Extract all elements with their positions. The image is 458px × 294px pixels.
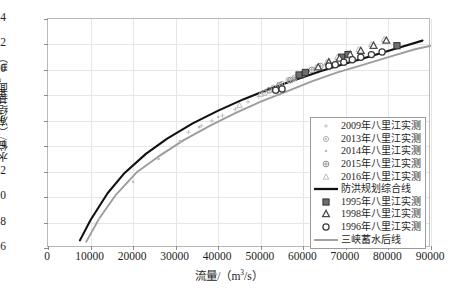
legend-item[interactable]: 2016年八里江实测 bbox=[313, 170, 421, 183]
x-axis-title: 流量/（m3/s） bbox=[0, 267, 458, 283]
x-tick-label: 50000 bbox=[245, 251, 274, 263]
y-tick-label: 8 bbox=[0, 216, 6, 228]
legend-label: 2016年八里江实测 bbox=[339, 172, 421, 182]
legend-marker-icon bbox=[313, 208, 339, 220]
legend-label: 1995年八里江实测 bbox=[339, 197, 421, 207]
y-tick-label: 18 bbox=[0, 88, 6, 100]
y-tick-label: 20 bbox=[0, 63, 6, 75]
x-tick-label: 40000 bbox=[203, 251, 232, 263]
legend-item[interactable]: 1996年八里江实测 bbox=[313, 221, 421, 234]
y-tick-label: 14 bbox=[0, 139, 6, 151]
legend-label: 2013年八里江实测 bbox=[339, 134, 421, 144]
y-tick-label: 6 bbox=[0, 241, 6, 253]
legend-marker-icon bbox=[313, 183, 339, 195]
series-markers bbox=[237, 36, 387, 107]
y-tick-label: 10 bbox=[0, 190, 6, 202]
y-tick bbox=[44, 248, 48, 249]
x-tick-label: 10000 bbox=[75, 251, 104, 263]
y-tick-label: 24 bbox=[0, 12, 6, 24]
legend-item[interactable]: 2015年八里江实测 bbox=[313, 158, 421, 171]
x-tick-label: 80000 bbox=[373, 251, 402, 263]
x-tick-label: 70000 bbox=[331, 251, 360, 263]
legend-item[interactable]: 2014年八里江实测 bbox=[313, 145, 421, 158]
legend-item[interactable]: 1995年八里江实测 bbox=[313, 196, 421, 209]
legend-marker-icon bbox=[313, 196, 339, 208]
legend-marker-icon bbox=[313, 221, 339, 233]
legend-label: 防洪规划综合线 bbox=[339, 184, 411, 194]
series-markers bbox=[273, 49, 386, 93]
legend-label: 三峡蓄水后线 bbox=[339, 235, 401, 245]
series-markers bbox=[186, 94, 261, 134]
legend-label: 2014年八里江实测 bbox=[339, 146, 421, 156]
y-tick-label: 16 bbox=[0, 114, 6, 126]
legend-item[interactable]: 防洪规划综合线 bbox=[313, 183, 421, 196]
legend-marker-icon bbox=[313, 158, 339, 170]
legend-item[interactable]: 2009年八里江实测 bbox=[313, 120, 421, 133]
figure-container: 水位/（冻结基面，m） 0100002000030000400005000060… bbox=[0, 0, 458, 294]
legend-marker-icon bbox=[313, 171, 339, 183]
legend-marker-icon bbox=[313, 145, 339, 157]
x-axis-title-tail: /s） bbox=[244, 270, 263, 282]
legend-item[interactable]: 1998年八里江实测 bbox=[313, 208, 421, 221]
y-tick-label: 12 bbox=[0, 165, 6, 177]
x-tick-label: 0 bbox=[44, 251, 50, 263]
x-axis-title-text: 流量/（m bbox=[195, 270, 240, 282]
legend-marker-icon bbox=[313, 133, 339, 145]
gridline-vertical bbox=[431, 19, 432, 246]
legend-label: 2009年八里江实测 bbox=[339, 121, 421, 131]
legend-label: 2015年八里江实测 bbox=[339, 159, 421, 169]
x-tick-label: 30000 bbox=[160, 251, 189, 263]
legend-label: 1998年八里江实测 bbox=[339, 209, 421, 219]
x-tick-label: 90000 bbox=[416, 251, 445, 263]
legend-item[interactable]: 2013年八里江实测 bbox=[313, 133, 421, 146]
x-tick-label: 20000 bbox=[118, 251, 147, 263]
legend-label: 1996年八里江实测 bbox=[339, 222, 421, 232]
legend-marker-icon bbox=[313, 120, 339, 132]
legend-marker-icon bbox=[313, 234, 339, 246]
x-tick-label: 60000 bbox=[288, 251, 317, 263]
legend-item[interactable]: 三峡蓄水后线 bbox=[313, 233, 421, 246]
chart-legend[interactable]: 2009年八里江实测2013年八里江实测2014年八里江实测2015年八里江实测… bbox=[310, 117, 426, 249]
y-tick-label: 22 bbox=[0, 37, 6, 49]
